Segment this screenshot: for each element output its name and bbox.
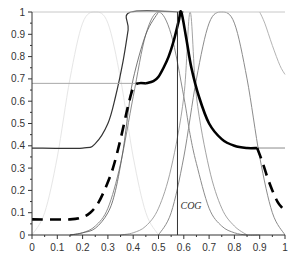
x-tick-label: 0.2 [76,242,90,253]
y-tick-label: 0.3 [11,163,25,174]
cog-label: COG [180,200,201,211]
series-membership-0.25 [32,12,159,235]
series-layer [32,11,285,235]
y-tick-label: 0.1 [11,207,25,218]
series-aggregate-solid-middle [146,11,257,148]
y-tick-label: 0.7 [11,73,25,84]
series-clipped-0.39-rise [32,11,184,149]
y-tick-label: 0.9 [11,29,25,40]
y-tick-label: 1 [19,7,25,18]
x-tick-label: 1 [282,242,288,253]
y-tick-label: 0.8 [11,51,25,62]
x-tick-label: 0.8 [227,242,241,253]
series-aggregate-dashed-right [257,148,285,210]
x-tick-label: 0.4 [126,242,140,253]
x-tick-label: 0.5 [152,242,166,253]
x-tick-label: 0.1 [50,242,64,253]
x-tick-label: 0.9 [253,242,267,253]
y-tick-label: 0.2 [11,185,25,196]
axes: 00.10.20.30.40.50.60.70.80.91 00.10.20.3… [11,7,288,254]
y-tick-label: 0 [19,230,25,241]
membership-chart: COG 00.10.20.30.40.50.60.70.80.91 00.10.… [0,0,293,261]
y-ticks: 00.10.20.30.40.50.60.70.80.91 [11,7,32,241]
x-tick-label: 0.7 [202,242,216,253]
y-tick-label: 0.4 [11,140,25,151]
x-ticks: 00.10.20.30.40.50.60.70.80.91 [29,235,288,253]
x-tick-label: 0.3 [101,242,115,253]
x-tick-label: 0 [29,242,35,253]
series-membership-1.0 [260,12,285,74]
y-tick-label: 0.6 [11,96,25,107]
series-aggregate-dashed-left [32,83,146,220]
y-tick-label: 0.5 [11,118,25,129]
x-tick-label: 0.6 [177,242,191,253]
